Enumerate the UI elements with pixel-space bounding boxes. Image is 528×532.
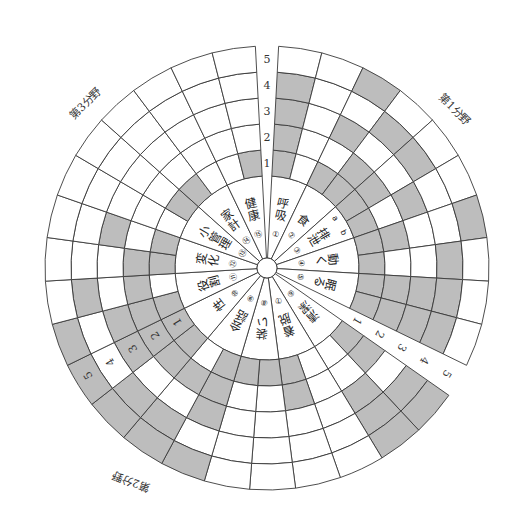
score-cell	[384, 248, 411, 276]
score-cell	[225, 98, 259, 128]
score-cell	[254, 411, 289, 438]
center-hub	[257, 258, 277, 278]
score-cell	[97, 277, 127, 312]
radial-assessment-chart: 呼吸①食②排泄③動く④眠る⑤清潔⑥着脱⑦装い⑧会話⑨性⑩役割⑪変化⑫小管理⑬家計…	[0, 0, 528, 532]
scale-number: 4	[264, 79, 271, 92]
score-cell	[45, 237, 73, 281]
domain-title: 第3分野	[66, 84, 104, 122]
score-cell	[123, 248, 150, 276]
scale-number: 2	[372, 328, 387, 341]
item-number: ⑫	[228, 259, 238, 268]
scale-number: 1	[350, 315, 365, 328]
score-cell	[258, 359, 282, 386]
svg-text:化: 化	[206, 254, 222, 268]
scale-number: 4	[417, 354, 432, 367]
svg-text:く: く	[313, 254, 329, 268]
svg-text:い: い	[256, 314, 269, 329]
scale-number: 5	[439, 368, 454, 381]
score-cell	[410, 245, 437, 278]
score-cell	[252, 437, 293, 464]
score-cell	[256, 385, 286, 412]
scale-number: 1	[264, 157, 271, 170]
score-cell	[250, 462, 296, 490]
domain-title: 第2分野	[109, 468, 151, 495]
scale-number: 5	[264, 53, 271, 66]
scale-number: 2	[264, 131, 271, 144]
score-cell	[71, 241, 99, 280]
item-number: ⑧	[260, 298, 268, 308]
score-cell	[97, 245, 124, 278]
scale-number: 3	[394, 341, 409, 354]
score-cell	[358, 252, 385, 275]
score-cell	[149, 252, 176, 275]
scale-number: 3	[264, 105, 271, 118]
domain-title: 第1分野	[436, 90, 474, 128]
score-cell	[435, 241, 463, 280]
score-cell	[461, 237, 489, 281]
item-number: ④	[296, 259, 306, 267]
